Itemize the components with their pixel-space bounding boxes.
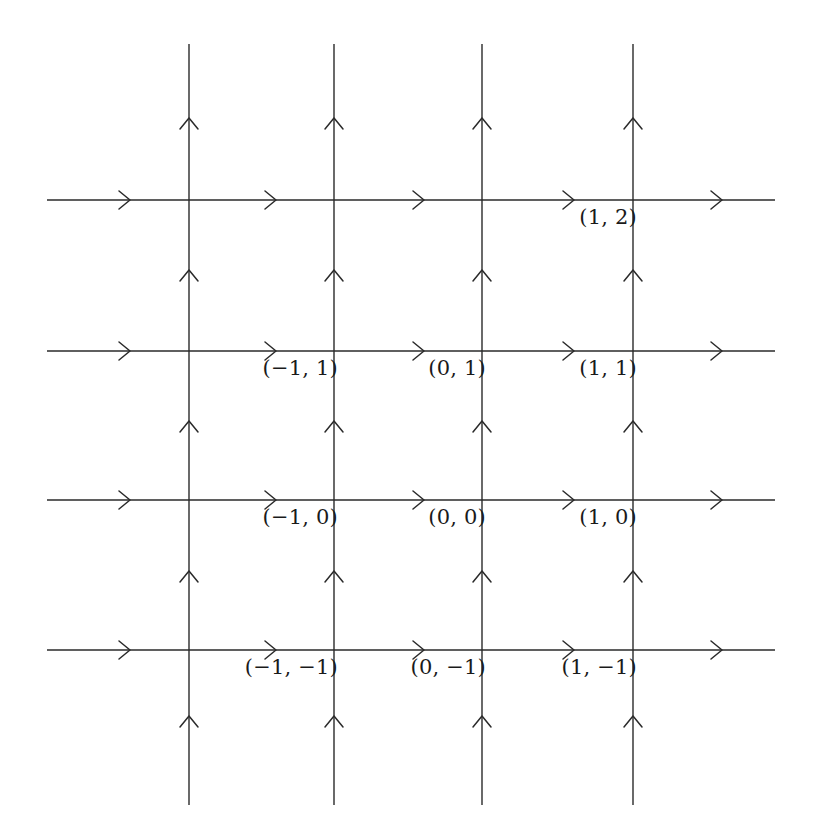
- vertex-label-1-1: (1, 1): [579, 358, 637, 379]
- vertex-label-minus1-0: (−1, 0): [263, 507, 338, 528]
- vertex-label-1-2: (1, 2): [579, 207, 637, 228]
- lattice-diagram-canvas: (1, 2) (−1, 1) (0, 1) (1, 1) (−1, 0) (0,…: [0, 0, 816, 837]
- vertex-label-0-0: (0, 0): [428, 507, 486, 528]
- grid-lines-group: [47, 44, 775, 805]
- vertex-label-0-1: (0, 1): [428, 358, 486, 379]
- vertex-label-minus1-1: (−1, 1): [263, 358, 338, 379]
- lattice-grid-svg: [0, 0, 816, 837]
- vertex-label-minus1-minus1: (−1, −1): [245, 657, 338, 678]
- vertex-label-1-0: (1, 0): [579, 507, 637, 528]
- vertex-label-0-minus1: (0, −1): [411, 657, 486, 678]
- vertex-label-1-minus1: (1, −1): [562, 657, 637, 678]
